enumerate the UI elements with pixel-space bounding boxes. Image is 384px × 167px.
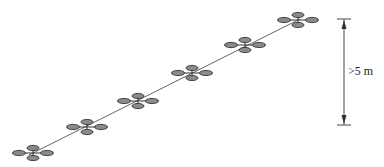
rotor-icon xyxy=(306,17,319,22)
diagram-canvas: >5 m xyxy=(0,0,384,167)
drone-icon xyxy=(67,119,108,134)
rotor-icon xyxy=(200,70,213,75)
rotor-icon xyxy=(292,22,304,27)
drone-icon xyxy=(278,12,319,27)
arrow-down-icon xyxy=(342,115,347,124)
rotor-icon xyxy=(27,145,39,150)
rotor-icon xyxy=(132,93,144,98)
drone-icon xyxy=(13,145,54,160)
formation-line xyxy=(29,19,300,155)
rotor-icon xyxy=(225,42,238,47)
rotor-icon xyxy=(13,150,26,155)
rotor-icon xyxy=(132,103,144,108)
formation-path-line xyxy=(29,19,300,155)
rotor-icon xyxy=(67,124,80,129)
rotor-icon xyxy=(186,65,198,70)
rotor-icon xyxy=(27,155,39,160)
drone-icon xyxy=(118,93,159,108)
drone-icon xyxy=(172,65,213,80)
rotor-icon xyxy=(118,98,131,103)
rotor-icon xyxy=(146,98,159,103)
rotor-icon xyxy=(81,119,93,124)
rotor-icon xyxy=(239,47,251,52)
rotor-icon xyxy=(172,70,185,75)
rotor-icon xyxy=(81,129,93,134)
rotor-icon xyxy=(292,12,304,17)
arrow-up-icon xyxy=(342,20,347,29)
drone-formation-diagram xyxy=(0,0,384,167)
rotor-icon xyxy=(239,37,251,42)
rotor-icon xyxy=(186,75,198,80)
height-dimension-label: >5 m xyxy=(348,64,373,79)
rotor-icon xyxy=(95,124,108,129)
rotor-icon xyxy=(278,17,291,22)
rotor-icon xyxy=(253,42,266,47)
rotor-icon xyxy=(41,150,54,155)
